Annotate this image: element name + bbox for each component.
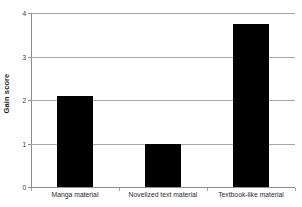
y-axis-title: Gain score bbox=[0, 0, 14, 187]
x-axis-label: Novelized text material bbox=[119, 191, 207, 198]
bar-chart-figure: Gain score 01234 Manga materialNovelized… bbox=[0, 0, 302, 207]
x-axis-label: Manga material bbox=[31, 191, 119, 198]
bar bbox=[57, 96, 93, 187]
y-tick-label-3: 3 bbox=[0, 53, 26, 60]
y-tick-label-1: 1 bbox=[0, 140, 26, 147]
gridline-y-0 bbox=[31, 187, 295, 188]
x-axis-label: Textbook-like material bbox=[207, 191, 295, 198]
bar bbox=[233, 24, 269, 187]
y-axis-title-text: Gain score bbox=[3, 74, 12, 114]
y-tick-label-2: 2 bbox=[0, 97, 26, 104]
gridline-y-4 bbox=[31, 13, 295, 14]
bar bbox=[145, 144, 181, 188]
x-tick-mark-end bbox=[295, 188, 296, 191]
y-tick-label-4: 4 bbox=[0, 10, 26, 17]
plot-area bbox=[31, 13, 295, 187]
y-tick-label-0: 0 bbox=[0, 184, 26, 191]
